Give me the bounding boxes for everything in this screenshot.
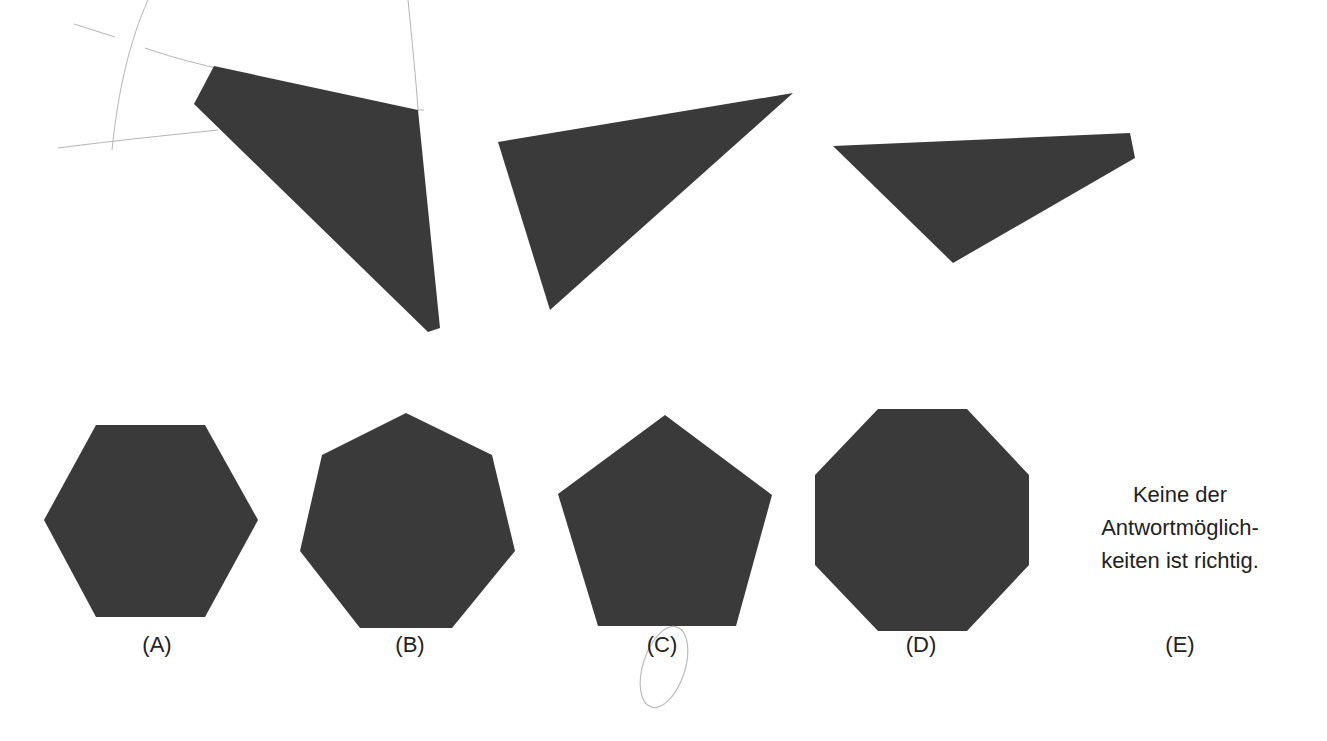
option-c-label[interactable]: (C) [647, 632, 678, 658]
option-c-pentagon[interactable] [558, 415, 772, 626]
puzzle-pieces [194, 66, 1135, 332]
puzzle-canvas [0, 0, 1327, 741]
answer-shapes [44, 409, 1029, 631]
option-a-label[interactable]: (A) [142, 632, 171, 658]
option-b-heptagon[interactable] [300, 413, 515, 628]
option-e-line-1: Keine der [1060, 478, 1300, 511]
piece-3-quadrilateral [833, 133, 1135, 263]
piece-1-quadrilateral [194, 66, 440, 332]
option-e-text[interactable]: Keine der Antwortmöglich- keiten ist ric… [1060, 478, 1300, 577]
option-e-label[interactable]: (E) [1165, 632, 1194, 658]
option-e-line-3: keiten ist richtig. [1060, 544, 1300, 577]
option-d-octagon[interactable] [815, 409, 1029, 631]
option-e-line-2: Antwortmöglich- [1060, 511, 1300, 544]
option-a-hexagon[interactable] [44, 425, 258, 617]
option-b-label[interactable]: (B) [395, 632, 424, 658]
piece-2-triangle [498, 93, 793, 310]
option-d-label[interactable]: (D) [906, 632, 937, 658]
